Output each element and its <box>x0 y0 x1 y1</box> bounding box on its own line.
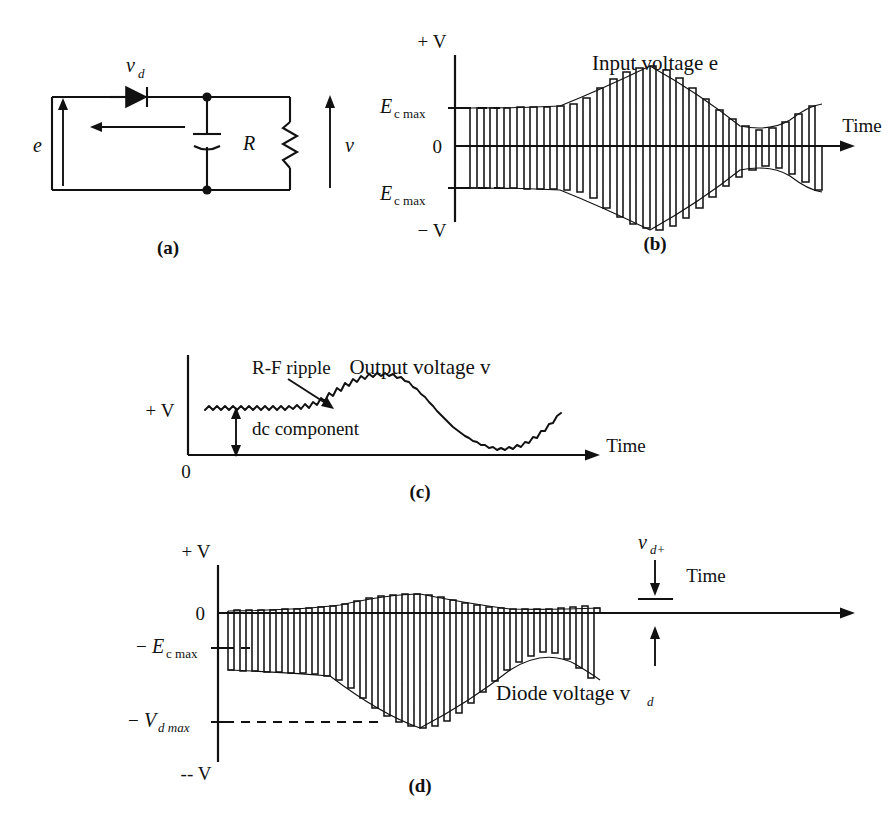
panel-d-zero-label: 0 <box>196 603 206 624</box>
panel-c-dc-arrow <box>231 407 241 457</box>
source-voltage-arrow <box>58 98 68 186</box>
panel-d-tick-vd-label: − V d max <box>128 709 190 735</box>
panel-b-tick-upper-label: E c max <box>379 95 426 121</box>
panel-d-ec-sub: c max <box>166 646 198 661</box>
panel-d-ec-sign: − <box>136 636 147 657</box>
panel-c-ripple-label: R-F ripple <box>252 357 331 378</box>
current-arrow-icon <box>90 122 185 132</box>
panel-d-vd-sign: − <box>128 710 139 731</box>
panel-d-title-sub: d <box>647 694 654 709</box>
panel-d-x-axis-arrow <box>840 608 855 619</box>
node-top-junction <box>202 92 211 101</box>
panel-d-tick-ec-label: − E c max <box>136 635 198 661</box>
panel-a-label-e: e <box>33 134 42 156</box>
panel-c-dc-label: dc component <box>252 418 360 439</box>
panel-b-x-axis-arrow <box>840 141 855 152</box>
panel-c-y-top-label: + V <box>146 400 175 421</box>
panel-a-id: (a) <box>157 237 179 259</box>
panel-b-x-label: Time <box>842 115 881 136</box>
panel-a-vd-sub: d <box>138 66 145 81</box>
figure-svg: v d e R v (a) <box>0 0 890 815</box>
panel-c-output-voltage: + V 0 R-F ripple dc component Output vol… <box>146 355 646 503</box>
panel-a-vd-main: v <box>126 54 135 76</box>
panel-c-zero-label: 0 <box>181 461 191 482</box>
panel-b-input-voltage: + V − V 0 E c max E c max Input voltage … <box>379 31 882 255</box>
panel-d-vd-main: V <box>144 709 159 731</box>
panel-d-vdplus-sub: d+ <box>650 542 665 557</box>
panel-a-circuit: v d e R v (a) <box>33 54 354 259</box>
panel-d-title: Diode voltage v <box>496 681 631 705</box>
panel-b-y-bottom-label: − V <box>418 220 447 241</box>
panel-c-x-label: Time <box>606 435 645 456</box>
panel-c-x-axis-arrow <box>585 450 600 461</box>
panel-b-tick-lower-label: E c max <box>379 182 426 208</box>
panel-b-zero-label: 0 <box>433 136 443 157</box>
panel-d-vd-plus-label: v d+ <box>638 531 665 557</box>
panel-a-label-vd: v d <box>126 54 145 81</box>
panel-a-label-r: R <box>242 132 255 154</box>
panel-b-ec-lower-sub: c max <box>394 193 426 208</box>
panel-d-id: (d) <box>408 775 431 797</box>
panel-b-ec-upper-sub: c max <box>394 106 426 121</box>
panel-b-title: Input voltage e <box>592 51 718 75</box>
diode-icon <box>110 87 207 107</box>
panel-b-ec-lower-main: E <box>379 182 392 204</box>
node-bottom-junction <box>202 185 211 194</box>
figure-root: v d e R v (a) <box>0 0 890 815</box>
panel-b-ec-upper-main: E <box>379 95 392 117</box>
panel-b-id: (b) <box>643 233 666 255</box>
panel-d-y-top-label: + V <box>182 541 211 562</box>
panel-d-vd-sub: d max <box>158 720 190 735</box>
resistor-icon <box>283 122 297 168</box>
panel-d-x-label: Time <box>686 565 725 586</box>
panel-c-title: Output voltage v <box>349 355 491 379</box>
panel-b-waveform <box>470 66 822 230</box>
panel-d-ec-main: E <box>151 635 164 657</box>
panel-c-id: (c) <box>409 481 430 503</box>
panel-d-y-bottom-label: -- V <box>181 763 212 784</box>
panel-d-diode-voltage: + V 0 -- V − E c max − V d max v d+ Time… <box>128 531 855 797</box>
output-voltage-arrow <box>325 95 335 188</box>
panel-a-label-v: v <box>345 134 354 156</box>
panel-b-y-top-label: + V <box>418 31 447 52</box>
panel-d-title-group: Diode voltage v d <box>496 681 654 709</box>
panel-d-vdplus-main: v <box>638 531 647 553</box>
